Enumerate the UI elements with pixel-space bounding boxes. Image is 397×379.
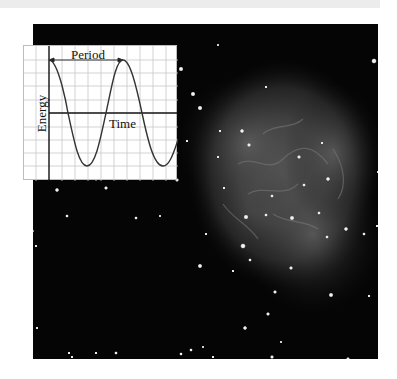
energy-time-graph: Period Time Energy: [23, 45, 177, 180]
nebula-cloud: [178, 59, 378, 314]
top-band: [0, 0, 380, 8]
time-axis-label: Time: [109, 117, 136, 130]
period-label: Period: [71, 48, 105, 61]
energy-axis-label: Energy: [35, 90, 48, 138]
